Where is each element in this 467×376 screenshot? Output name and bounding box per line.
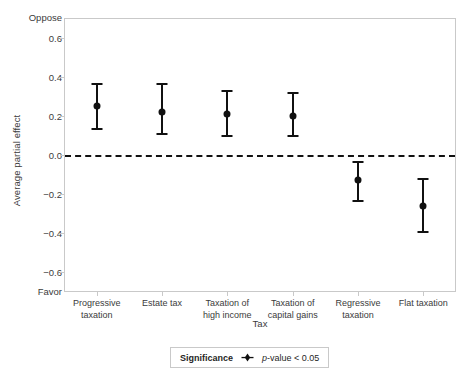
y-axis-tick-mark: [60, 155, 64, 156]
error-bar-cap-upper: [222, 90, 233, 92]
data-point: [420, 202, 427, 209]
x-axis-tick-mark: [227, 292, 228, 296]
y-axis-tick-label: −0.6: [0, 267, 62, 278]
y-axis-tick-mark: [60, 194, 64, 195]
error-bar-cap-upper: [91, 83, 102, 85]
chart-container: Average partial effect Oppose Favor 0.60…: [0, 0, 467, 376]
error-bar-cap-upper: [418, 178, 429, 180]
data-point: [355, 177, 362, 184]
y-axis-tick-label: 0.2: [0, 110, 62, 121]
y-axis-tick-label: 0.0: [0, 150, 62, 161]
data-point: [224, 110, 231, 117]
data-point: [289, 112, 296, 119]
legend-entry-label: p-value < 0.05: [262, 353, 319, 363]
x-axis-title: Tax: [60, 318, 460, 329]
error-bar-cap-lower: [287, 135, 298, 137]
y-axis-tick-label: 0.6: [0, 32, 62, 43]
error-bar-cap-lower: [157, 133, 168, 135]
data-point: [159, 108, 166, 115]
data-point: [93, 103, 100, 110]
diamond-marker-icon: [241, 353, 254, 362]
y-axis-tick-mark: [60, 77, 64, 78]
error-bar-cap-lower: [91, 128, 102, 130]
y-axis-tick-mark: [60, 38, 64, 39]
x-axis-tick-mark: [162, 292, 163, 296]
y-axis-pole-low-label: Favor: [0, 286, 62, 297]
x-axis-tick-mark: [293, 292, 294, 296]
error-bar-cap-upper: [287, 92, 298, 94]
y-axis-tick-mark: [60, 272, 64, 273]
y-axis-title: Average partial effect: [11, 81, 22, 241]
y-axis-tick-label: −0.4: [0, 228, 62, 239]
y-axis-tick-mark: [60, 233, 64, 234]
error-bar-cap-upper: [353, 161, 364, 163]
error-bar-cap-upper: [157, 83, 168, 85]
legend-title: Significance: [180, 353, 233, 363]
x-axis-tick-label: Flat taxation: [381, 298, 465, 310]
zero-reference-line: [65, 155, 455, 157]
error-bar-cap-lower: [353, 200, 364, 202]
legend-entry-rest: -value < 0.05: [267, 353, 319, 363]
legend: Significance p-value < 0.05: [170, 347, 329, 368]
error-bar-cap-lower: [418, 231, 429, 233]
x-axis-tick-mark: [358, 292, 359, 296]
x-axis-tick-mark: [423, 292, 424, 296]
y-axis-tick-label: 0.4: [0, 71, 62, 82]
x-axis-tick-mark: [97, 292, 98, 296]
y-axis-pole-high-label: Oppose: [0, 12, 62, 23]
error-bar-cap-lower: [222, 135, 233, 137]
y-axis-tick-label: −0.2: [0, 189, 62, 200]
y-axis-tick-mark: [60, 116, 64, 117]
